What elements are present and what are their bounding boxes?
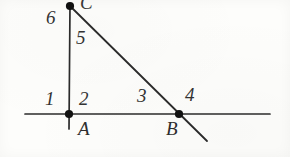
angle-label-5: 5 bbox=[76, 28, 86, 47]
angle-label-1: 1 bbox=[45, 89, 55, 108]
point-label-a: A bbox=[78, 119, 90, 138]
angle-label-6: 6 bbox=[46, 8, 56, 27]
lines-group bbox=[25, 5, 270, 141]
angle-label-2: 2 bbox=[79, 89, 89, 108]
angle-label-3: 3 bbox=[137, 86, 147, 105]
figure-canvas bbox=[0, 0, 290, 157]
point-b-dot bbox=[175, 110, 183, 118]
point-label-b: B bbox=[166, 119, 178, 138]
point-a-dot bbox=[65, 110, 73, 118]
point-label-c: C bbox=[80, 0, 93, 12]
angle-label-4: 4 bbox=[185, 85, 195, 104]
slanted-line bbox=[70, 6, 207, 141]
point-c-dot bbox=[66, 2, 74, 10]
geometry-figure: C A B 1 2 3 4 5 6 bbox=[0, 0, 290, 157]
